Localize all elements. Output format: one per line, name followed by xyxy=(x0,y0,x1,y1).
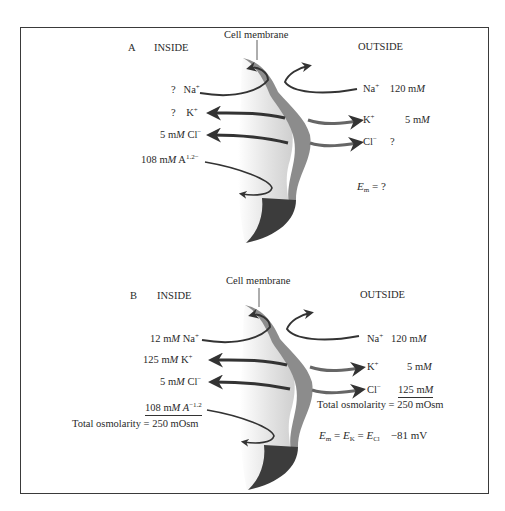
membrane-label-b: Cell membrane xyxy=(226,276,290,287)
na-arrow-outside-up xyxy=(287,313,359,340)
outside-k-b: K+ xyxy=(367,362,379,373)
membrane-label-a: Cell membrane xyxy=(224,30,288,41)
panel-a: A INSIDE Cell membrane OUTSIDE ? Na+ ? K… xyxy=(0,0,505,240)
inside-k-b: 125 mM K+ xyxy=(143,355,192,366)
outside-heading-a: OUTSIDE xyxy=(358,42,403,53)
na-arrow-outside-up xyxy=(285,66,357,93)
cl-arrow-outward xyxy=(310,143,358,146)
inside-na-a: ? Na+ xyxy=(171,85,200,96)
outside-heading-b: OUTSIDE xyxy=(360,290,405,301)
inside-cl-b: 5 mM Cl− xyxy=(160,377,201,388)
inside-cl-a: 5 mM Cl− xyxy=(160,130,201,141)
inside-heading-b: INSIDE xyxy=(157,291,191,302)
outside-k-conc-b: 5 mM xyxy=(407,362,432,373)
outside-total-osmolarity-b: Total osmolarity = 250 mOsm xyxy=(317,400,444,411)
inside-heading-a: INSIDE xyxy=(154,43,188,54)
outside-na-b: Na+ 120 mM xyxy=(367,334,426,345)
panel-letter-a: A xyxy=(128,43,136,54)
outside-na-a: Na+ 120 mM xyxy=(363,84,425,95)
panel-letter-b: B xyxy=(130,291,137,302)
membrane-diagram-b xyxy=(0,253,505,503)
panel-b: B INSIDE Cell membrane OUTSIDE 12 mM Na+… xyxy=(0,253,505,493)
inside-anion-a: 108 mM A1.2− xyxy=(141,155,199,166)
inside-anion-b: 108 mM A−1.2 xyxy=(145,403,202,416)
outside-cl-b: Cl− xyxy=(367,385,381,396)
inside-total-osmolarity-b: Total osmolarity = 250 mOsm xyxy=(72,419,199,430)
membrane-potential-b: Em = EK = ECl −81 mV xyxy=(319,430,427,441)
inside-na-b: 12 mM Na+ xyxy=(150,334,199,345)
outside-k-a: K+ xyxy=(363,115,375,126)
cl-arrow-outward xyxy=(312,390,360,393)
outside-k-conc-a: 5 mM xyxy=(405,115,430,126)
k-arrow-outward xyxy=(310,367,360,371)
outside-cl-a: Cl− ? xyxy=(363,137,395,148)
outside-cl-conc-b: 125 mM xyxy=(398,385,433,398)
k-arrow-outward xyxy=(308,120,358,124)
membrane-potential-a: Em = ? xyxy=(357,181,386,192)
inside-k-a: ? K+ xyxy=(171,108,198,119)
